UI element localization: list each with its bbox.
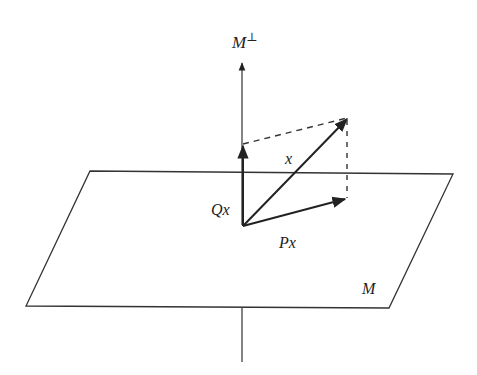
dashed-line-top: [243, 118, 347, 144]
plane-m: [26, 171, 453, 308]
label-plane-m: M: [361, 280, 377, 297]
vector-px: [243, 199, 345, 226]
label-px: Px: [278, 234, 296, 251]
label-x: x: [284, 150, 292, 167]
projection-diagram: M⊥ x Qx Px M: [0, 0, 477, 375]
label-m-perp: M⊥: [231, 30, 257, 52]
label-qx: Qx: [211, 201, 230, 218]
